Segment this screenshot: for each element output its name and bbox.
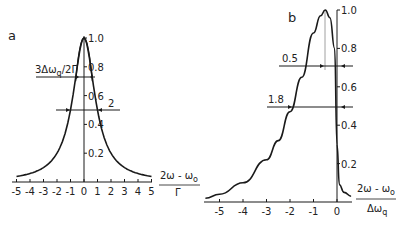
x-label-a-denominator: Γ — [175, 187, 181, 198]
y-tick-label: 0.8 — [341, 43, 357, 54]
y-tick-label: 0.6 — [341, 82, 357, 93]
panel-b: b -5-4-3-2-10 0.20.40.60.81.0 0.5 1.8 2ω… — [204, 5, 396, 217]
x-label-a-numerator: 2ω - ωo — [160, 170, 198, 184]
panel-a-label: a — [8, 28, 16, 43]
x-tick-label: -1 — [309, 206, 319, 217]
annotation-b1: 0.5 — [282, 53, 298, 64]
x-tick-label: 5 — [148, 186, 154, 197]
annotation-a2: 2 — [108, 98, 114, 109]
x-tick-label: -4 — [238, 206, 248, 217]
x-tick-label: -3 — [262, 206, 272, 217]
x-tick-label: 3 — [121, 186, 127, 197]
x-tick-label: 0 — [334, 206, 340, 217]
y-tick-label: 1.0 — [341, 5, 357, 16]
y-ticks-b: 0.20.40.60.81.0 — [337, 5, 357, 170]
x-tick-label: -1 — [66, 186, 76, 197]
y-tick-label: 0.4 — [341, 120, 357, 131]
x-tick-label: 0 — [81, 186, 87, 197]
arrow-icon — [341, 105, 345, 109]
x-tick-label: -3 — [39, 186, 49, 197]
x-tick-label: 2 — [108, 186, 114, 197]
x-label-b-numerator: 2ω - ωo — [357, 183, 395, 197]
arrow-icon — [288, 105, 292, 109]
y-tick-label: 0.2 — [88, 148, 104, 159]
x-tick-label: 4 — [135, 186, 141, 197]
x-tick-label: -2 — [52, 186, 62, 197]
y-tick-label: 0.2 — [341, 159, 357, 170]
panel-b-label: b — [288, 10, 296, 25]
arrow-icon — [76, 75, 79, 79]
arrow-icon — [98, 108, 102, 112]
y-tick-label: 1.0 — [88, 33, 104, 44]
arrow-icon — [320, 64, 324, 68]
figure: a -5-4-3-2-1012345 0.20.40.60.81.0 3Δωq/… — [0, 0, 405, 231]
annotation-b2: 1.8 — [268, 94, 284, 105]
annotation-a1: 3Δωq/2Γ — [35, 64, 77, 78]
x-tick-label: -5 — [12, 186, 22, 197]
x-tick-label: -5 — [215, 206, 225, 217]
x-tick-label: -4 — [25, 186, 35, 197]
x-tick-label: -2 — [285, 206, 295, 217]
y-ticks-a: 0.20.40.60.81.0 — [84, 33, 104, 159]
arrow-icon — [341, 64, 345, 68]
x-tick-label: 1 — [94, 186, 100, 197]
x-label-b-denominator: Δωq — [367, 203, 387, 217]
panel-a: a -5-4-3-2-1012345 0.20.40.60.81.0 3Δωq/… — [8, 28, 200, 198]
